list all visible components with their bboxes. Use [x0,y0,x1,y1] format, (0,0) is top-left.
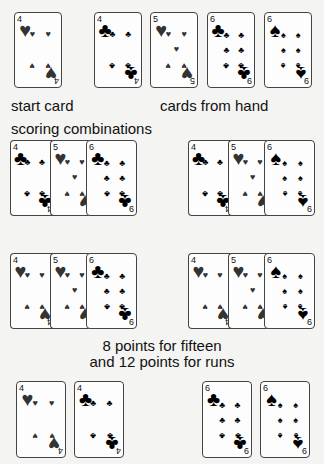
heart-icon: ♥ [72,286,77,295]
club-icon: ♣ [202,157,208,166]
club-icon: ♣ [119,159,125,168]
heart-icon: ♥ [79,157,84,166]
playing-card-4-of-hearts: 4♥♥♥♥♥♥4 [10,253,54,329]
playing-card-4-of-hearts: 4♥♥♥♥♥♥4 [14,12,62,88]
playing-card-6-of-clubs: 6♣♣♣♣♣♣♣♣9 [207,12,255,88]
club-icon: ♣ [104,287,110,296]
heart-icon: ♥ [33,399,38,408]
caption-fifteen: 8 points for fifteen [0,338,324,354]
heart-icon: ♥ [65,301,70,310]
club-icon: ♣ [238,31,244,40]
card-rank: 4 [54,76,59,85]
heart-icon: ♥ [243,157,248,166]
spade-icon: ♠ [293,400,298,409]
club-icon: ♣ [110,29,116,38]
heart-icon: ♥ [39,270,44,279]
card-rank: 5 [190,76,195,85]
spade-icon: ♠ [270,261,281,281]
spade-icon: ♠ [282,301,287,310]
club-icon: ♣ [119,272,125,281]
club-icon: ♣ [110,60,116,69]
heart-icon: ♥ [257,157,262,166]
start-card-label: start card [11,97,74,114]
playing-card-6-of-spades: 6♠♠♠♠♠♠♠♠9 [264,12,312,88]
spade-icon: ♠ [282,287,287,296]
playing-card-4-of-clubs: 4♣♣♣♣♣♣4 [94,12,142,88]
heart-icon: ♥ [65,270,70,279]
spade-icon: ♠ [293,415,298,424]
heart-icon: ♥ [33,430,38,439]
heart-icon: ♥ [25,270,30,279]
card-rank: 9 [302,446,307,455]
club-icon: ♣ [90,430,96,439]
card-rank: 4 [58,446,63,455]
heart-icon: ♥ [79,270,84,279]
club-icon: ♣ [207,389,220,409]
spade-icon: ♠ [278,415,283,424]
spade-icon: ♠ [282,188,287,197]
playing-card-6-of-spades: 6♠♠♠♠♠♠♠♠9 [260,381,310,458]
spade-icon: ♠ [266,389,277,409]
club-icon: ♣ [223,46,229,55]
spade-icon: ♠ [270,20,281,40]
playing-card-6-of-clubs: 6♣♣♣♣♣♣♣♣9 [86,140,137,216]
spade-icon: ♠ [281,60,286,69]
heart-icon: ♥ [217,270,222,279]
heart-icon: ♥ [30,29,35,38]
heart-icon: ♥ [181,29,186,38]
spade-icon: ♠ [281,31,286,40]
club-icon: ♣ [104,188,110,197]
spade-icon: ♠ [282,272,287,281]
heart-icon: ♥ [203,301,208,310]
card-rank: 9 [129,204,134,213]
spade-icon: ♠ [296,46,301,55]
playing-card-4-of-clubs: 4♣♣♣♣♣♣4 [74,381,124,458]
heart-icon: ♥ [72,173,77,182]
spade-icon: ♠ [270,148,281,168]
heart-icon: ♥ [49,399,54,408]
club-icon: ♣ [235,400,241,409]
heart-icon: ♥ [243,301,248,310]
playing-card-6-of-clubs: 6♣♣♣♣♣♣♣♣9 [86,253,137,329]
club-icon: ♣ [104,272,110,281]
spade-icon: ♠ [281,46,286,55]
club-icon: ♣ [223,60,229,69]
club-icon: ♣ [223,31,229,40]
club-icon: ♣ [235,415,241,424]
spade-icon: ♠ [296,31,301,40]
cards-from-hand-label: cards from hand [160,97,268,114]
heart-icon: ♥ [250,286,255,295]
club-icon: ♣ [217,157,223,166]
playing-card-6-of-spades: 6♠♠♠♠♠♠♠♠9 [264,140,315,216]
club-icon: ♣ [238,46,244,55]
club-icon: ♣ [91,261,104,281]
club-icon: ♣ [24,157,30,166]
card-rank: 9 [247,76,252,85]
heart-icon: ♥ [30,60,35,69]
club-icon: ♣ [219,415,225,424]
card-rank: 9 [304,76,309,85]
card-rank: 9 [244,446,249,455]
club-icon: ♣ [104,159,110,168]
heart-icon: ♥ [65,188,70,197]
heart-icon: ♥ [257,270,262,279]
playing-card-6-of-spades: 6♠♠♠♠♠♠♠♠9 [264,253,315,329]
club-icon: ♣ [219,430,225,439]
scoring-combinations-heading: scoring combinations [11,120,152,137]
club-icon: ♣ [107,399,113,408]
playing-card-4-of-clubs: 4♣♣♣♣♣♣4 [10,140,54,216]
card-rank: 9 [307,204,312,213]
card-rank: 9 [129,317,134,326]
spade-icon: ♠ [278,430,283,439]
heart-icon: ♥ [25,301,30,310]
card-rank: 9 [307,317,312,326]
heart-icon: ♥ [166,29,171,38]
heart-icon: ♥ [243,188,248,197]
playing-card-6-of-clubs: 6♣♣♣♣♣♣♣♣9 [202,381,252,458]
club-icon: ♣ [90,399,96,408]
club-icon: ♣ [104,301,110,310]
caption-runs: and 12 points for runs [0,354,324,370]
playing-card-4-of-clubs: 4♣♣♣♣♣♣4 [188,140,232,216]
spade-icon: ♠ [298,159,303,168]
club-icon: ♣ [202,188,208,197]
